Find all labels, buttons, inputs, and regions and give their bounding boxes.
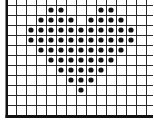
dot	[58, 17, 63, 22]
dot	[58, 47, 63, 52]
dot	[108, 57, 113, 62]
dot	[98, 67, 103, 72]
dot	[128, 27, 133, 32]
dot	[78, 37, 83, 42]
dot	[108, 47, 113, 52]
grid-lines	[6, 0, 153, 115]
dot	[38, 27, 43, 32]
dot	[108, 7, 113, 12]
dot	[48, 7, 53, 12]
dot	[68, 67, 73, 72]
dot	[98, 17, 103, 22]
dot	[88, 67, 93, 72]
dot	[28, 27, 33, 32]
dot	[88, 57, 93, 62]
dot	[98, 37, 103, 42]
heart-dot-grid	[0, 0, 153, 124]
dot	[78, 77, 83, 82]
dot	[48, 27, 53, 32]
dot	[58, 37, 63, 42]
dot	[68, 27, 73, 32]
dot	[48, 17, 53, 22]
dot	[98, 47, 103, 52]
dot	[88, 17, 93, 22]
dot	[78, 57, 83, 62]
dot	[108, 37, 113, 42]
dot	[48, 47, 53, 52]
dot	[38, 17, 43, 22]
dot	[98, 7, 103, 12]
dot	[128, 37, 133, 42]
dot	[118, 27, 123, 32]
dot	[78, 87, 83, 92]
heart-dots	[28, 7, 133, 92]
bottom-border	[6, 115, 154, 118]
dot	[118, 37, 123, 42]
dot	[108, 17, 113, 22]
dot	[118, 47, 123, 52]
dot	[58, 7, 63, 12]
dot	[48, 57, 53, 62]
left-border	[6, 0, 9, 118]
dot	[68, 17, 73, 22]
dot	[38, 47, 43, 52]
dot	[98, 57, 103, 62]
dot	[68, 77, 73, 82]
dot	[88, 77, 93, 82]
dot	[78, 27, 83, 32]
dot	[28, 37, 33, 42]
dot	[38, 37, 43, 42]
dot	[68, 47, 73, 52]
dot	[58, 67, 63, 72]
dot	[98, 27, 103, 32]
dot	[118, 17, 123, 22]
dot	[88, 37, 93, 42]
dot	[108, 27, 113, 32]
dot	[58, 57, 63, 62]
dot	[68, 37, 73, 42]
dot	[78, 67, 83, 72]
dot	[58, 27, 63, 32]
dot	[48, 37, 53, 42]
dot	[88, 47, 93, 52]
dot	[68, 57, 73, 62]
dot	[78, 47, 83, 52]
dot	[88, 27, 93, 32]
